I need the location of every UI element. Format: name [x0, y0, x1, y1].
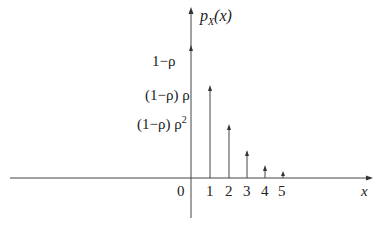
stem-0-arrow-icon: [189, 45, 193, 51]
x-tick-label-1: 1: [206, 184, 214, 199]
x-tick-label-3: 3: [243, 184, 251, 199]
y-axis-title: pX(x): [200, 8, 232, 27]
pmf-plot: [0, 0, 381, 226]
stem-1-arrow-icon: [208, 85, 212, 91]
stem-5-arrow-icon: [281, 171, 285, 176]
x-axis-arrow-icon: [366, 176, 373, 181]
y-tick-label-0: 1−ρ: [152, 54, 175, 69]
stem-2-arrow-icon: [227, 124, 231, 130]
y-tick-label-2: (1−ρ) ρ2: [137, 115, 187, 132]
x-tick-label-0: 0: [177, 184, 185, 199]
x-tick-label-4: 4: [261, 184, 269, 199]
x-axis-title: x: [361, 184, 368, 199]
pmf-diagram: pX(x) 1−ρ (1−ρ) ρ (1−ρ) ρ2 0 1 2 3 4 5 x: [0, 0, 381, 226]
stem-4-arrow-icon: [263, 165, 267, 171]
x-tick-label-5: 5: [278, 184, 286, 199]
x-tick-label-2: 2: [225, 184, 233, 199]
stem-3-arrow-icon: [245, 150, 249, 156]
y-tick-label-1: (1−ρ) ρ: [145, 88, 190, 103]
y-axis-arrow-icon: [189, 7, 194, 14]
